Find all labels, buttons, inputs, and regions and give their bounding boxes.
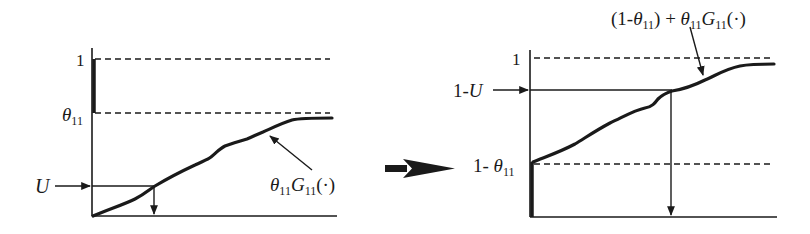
transition-arrow-icon (385, 159, 455, 178)
right-tick-one: 1 (512, 50, 521, 69)
left-panel: 1 θ11 U θ11G11(·) (35, 48, 337, 216)
right-curve-shifted (533, 64, 774, 162)
right-curve-label: (1-θ11) + θ11G11(·) (611, 8, 746, 32)
left-tick-one: 1 (76, 51, 85, 70)
right-label-pointer (690, 27, 703, 75)
left-tick-theta: θ11 (62, 104, 83, 128)
left-curve-theta-g (93, 118, 332, 216)
right-panel: 1 1-U 1- θ11 (1-θ11) + θ11G11(·) (453, 8, 777, 217)
left-label-pointer (270, 136, 312, 170)
left-curve-label: θ11G11(·) (270, 174, 335, 198)
left-u-label: U (35, 175, 51, 197)
right-tick-one-minus-theta: 1- θ11 (473, 155, 514, 179)
cdf-transformation-diagram: 1 θ11 U θ11G11(·) 1 1-U 1- θ11 (1-θ11) +… (0, 0, 810, 234)
right-tick-one-minus-u: 1-U (453, 80, 484, 101)
